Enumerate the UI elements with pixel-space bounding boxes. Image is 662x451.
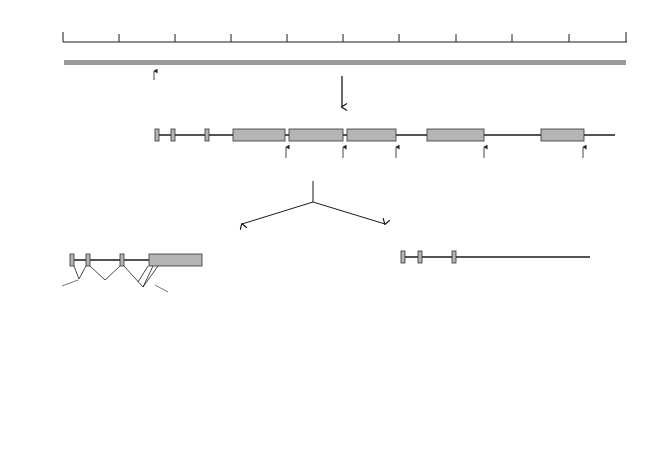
left-leader-3 (120, 254, 124, 266)
left-exon-l1 (149, 254, 202, 266)
primary-transcript (155, 129, 615, 158)
exon-l1 (233, 129, 285, 141)
right-leader-2 (418, 251, 422, 263)
right-example-l3 (401, 251, 590, 263)
adenovirus-dna (64, 60, 626, 107)
leader-exon-2 (171, 129, 175, 141)
exon-l3 (347, 129, 396, 141)
left-splice-3 (124, 266, 153, 287)
leader-exon-3 (205, 129, 209, 141)
map-scale (63, 32, 627, 42)
exon-l4 (427, 129, 484, 141)
left-leader-2 (86, 254, 90, 266)
right-leader-3 (452, 251, 456, 263)
exon-l5 (541, 129, 584, 141)
leader-exon-1 (155, 129, 159, 141)
branch-arrows (242, 181, 385, 224)
polya-site-arrows (286, 147, 583, 158)
left-leader-1 (70, 254, 74, 266)
dna-bar (64, 60, 626, 65)
left-splice-2 (90, 266, 120, 280)
left-example-l1 (0, 0, 202, 292)
left-splice-1 (74, 266, 86, 279)
adenovirus-late-transcription-diagram (0, 0, 662, 451)
exon-l2 (289, 129, 343, 141)
right-leader-1 (401, 251, 405, 263)
